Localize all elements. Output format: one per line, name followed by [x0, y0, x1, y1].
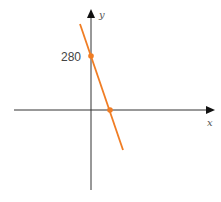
x-axis-arrow-icon: [206, 106, 215, 114]
x-axis-label: x: [207, 117, 213, 128]
chart: y x 280: [0, 0, 221, 202]
y-axis-arrow-icon: [87, 9, 95, 18]
y-intercept-label: 280: [61, 50, 81, 64]
x-intercept-point: [107, 107, 113, 113]
data-line: [80, 24, 123, 150]
y-axis-label: y: [98, 9, 105, 20]
y-intercept-point: [88, 53, 94, 59]
